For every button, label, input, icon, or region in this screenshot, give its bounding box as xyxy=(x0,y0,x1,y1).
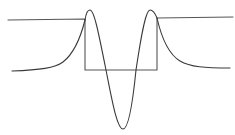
potential-well-diagram xyxy=(0,0,235,135)
wavefunction-right-tail xyxy=(157,18,230,68)
wavefunction-left-tail xyxy=(12,20,85,71)
potential-well-outline xyxy=(8,17,233,70)
